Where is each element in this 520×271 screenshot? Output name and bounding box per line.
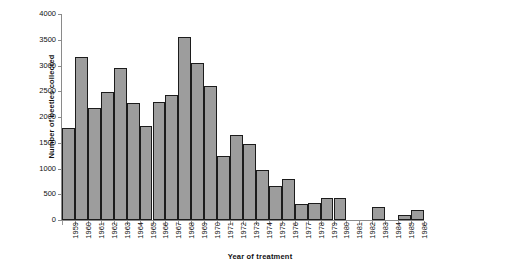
x-axis-tick-label: 1965: [150, 222, 158, 252]
y-axis-tick-label: 2500: [26, 87, 56, 95]
x-axis-tick-label: 1964: [137, 222, 145, 252]
y-axis-tick-label: 2000: [26, 113, 56, 121]
bar: [191, 63, 204, 220]
y-axis-tick-label: 0: [26, 216, 56, 224]
x-axis-tick-label: 1972: [240, 222, 248, 252]
beetles-bar-chart: Number of beetles collected 050010001500…: [0, 0, 520, 271]
x-axis-tick-label: 1969: [201, 222, 209, 252]
x-axis-tick-label: 1968: [188, 222, 196, 252]
bar: [269, 186, 282, 221]
x-axis-tick-label: 1983: [382, 222, 390, 252]
bar: [165, 95, 178, 220]
x-axis-tick-label: 1979: [331, 222, 339, 252]
x-axis-tick-label: 1961: [98, 222, 106, 252]
x-axis-title: Year of treatment: [0, 252, 520, 261]
bar: [230, 135, 243, 220]
bar: [411, 210, 424, 220]
x-axis-tick-label: 1960: [85, 222, 93, 252]
x-axis-tick-label: 1984: [395, 222, 403, 252]
bar: [243, 144, 256, 220]
bar: [372, 207, 385, 220]
y-axis-tick-mark: [58, 194, 62, 195]
x-axis-tick-label: 1962: [111, 222, 119, 252]
x-axis-tick-label: 1977: [305, 222, 313, 252]
bar: [256, 170, 269, 220]
y-axis-tick-label: 3000: [26, 62, 56, 70]
x-axis-tick-label: 1970: [214, 222, 222, 252]
y-axis-tick-label: 3500: [26, 36, 56, 44]
y-axis-tick-label: 1500: [26, 139, 56, 147]
bar: [75, 57, 88, 220]
bar: [204, 86, 217, 220]
x-axis-tick-labels: 1959196019611962196319641965196619671968…: [62, 222, 424, 252]
x-axis-tick-label: 1959: [72, 222, 80, 252]
bar: [398, 215, 411, 220]
x-axis-tick-label: 1971: [227, 222, 235, 252]
bar: [295, 204, 308, 220]
bar: [153, 102, 166, 220]
y-axis-tick-label: 4000: [26, 10, 56, 18]
bar: [127, 103, 140, 220]
bar: [282, 179, 295, 220]
y-axis-tick-mark: [58, 91, 62, 92]
y-axis-tick-mark: [58, 117, 62, 118]
y-axis-tick-mark: [58, 14, 62, 15]
x-axis-tick-label: 1980: [343, 222, 351, 252]
plot-area: [62, 14, 424, 220]
x-axis-tick-label: 1976: [292, 222, 300, 252]
bar: [217, 156, 230, 220]
y-axis-tick-label: 1000: [26, 165, 56, 173]
x-axis-tick-label: 1985: [408, 222, 416, 252]
y-axis-tick-label: 500: [26, 190, 56, 198]
bar: [308, 203, 321, 220]
x-axis-tick-label: 1978: [318, 222, 326, 252]
x-axis-tick-label: 1963: [124, 222, 132, 252]
x-axis-tick-label: 1986: [421, 222, 429, 252]
bar: [101, 92, 114, 220]
x-axis-tick-label: 1981: [356, 222, 364, 252]
bar: [334, 198, 347, 220]
bar: [62, 128, 75, 220]
x-axis-tick-label: 1975: [279, 222, 287, 252]
bar: [88, 108, 101, 220]
x-axis-tick-label: 1967: [175, 222, 183, 252]
bar: [321, 198, 334, 220]
bar: [114, 68, 127, 220]
y-axis-tick-mark: [58, 40, 62, 41]
x-axis-tick-label: 1982: [369, 222, 377, 252]
x-axis-tick-label: 1974: [266, 222, 274, 252]
y-axis-tick-labels: 05001000150020002500300035004000: [26, 0, 56, 271]
bar: [178, 37, 191, 220]
y-axis-tick-mark: [58, 66, 62, 67]
x-axis-tick-label: 1973: [253, 222, 261, 252]
y-axis-tick-mark: [58, 143, 62, 144]
y-axis-tick-mark: [58, 169, 62, 170]
bars-layer: [62, 14, 424, 220]
x-axis-tick-label: 1966: [162, 222, 170, 252]
bar: [140, 126, 153, 220]
